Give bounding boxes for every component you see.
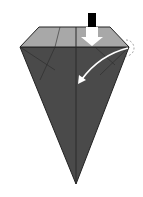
origami-diagram: [0, 0, 143, 197]
body-cone: [20, 47, 129, 184]
top-flap: [20, 27, 129, 47]
push-bar-icon: [88, 13, 96, 27]
